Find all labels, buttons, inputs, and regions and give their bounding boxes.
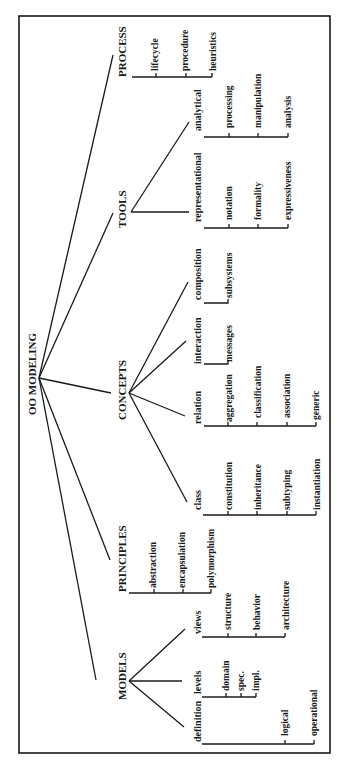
leaf-heuristics: heuristics [208, 32, 218, 71]
leaf-processing: processing [224, 85, 234, 128]
edge-concepts-class [129, 393, 187, 502]
edge-root-models [39, 378, 96, 680]
analytical-label: analytical [192, 89, 203, 131]
composition-bracket [204, 299, 228, 303]
root-label: OO MODELING [26, 332, 38, 415]
leaf-analysis: analysis [283, 95, 293, 128]
node-tools: TOOLS analytical processing manipulation… [116, 73, 293, 228]
leaf-domain: domain [221, 660, 231, 691]
leaf-instantiation: instantiation [312, 458, 322, 510]
leaf-formality: formality [253, 182, 263, 220]
leaf-subsystems: subsystems [224, 252, 234, 298]
leaf-association: association [282, 373, 292, 418]
leaf-messages: messages [224, 325, 234, 362]
views-label: views [192, 611, 203, 634]
leaf-manipulation: manipulation [253, 73, 263, 128]
edge-tools-analytical [131, 122, 189, 212]
leaf-abstraction: abstraction [148, 541, 158, 588]
leaf-architecture: architecture [281, 581, 291, 630]
leaf-impl: impl. [251, 670, 261, 691]
leaf-notation: notation [224, 186, 234, 221]
principles-label: PRINCIPLES [116, 525, 128, 592]
node-concepts: CONCEPTS composition subsystems interact… [116, 248, 322, 515]
leaf-subtyping: subtyping [282, 470, 292, 510]
leaf-constitution: constitution [224, 461, 234, 510]
leaf-structure: structure [223, 593, 233, 630]
edge-root-principles [39, 378, 110, 560]
leaf-expressiveness: expressiveness [283, 161, 293, 220]
edge-concepts-composition [129, 282, 188, 393]
root-edges [39, 55, 113, 680]
node-process: PROCESS lifecycle procedure heuristics [116, 26, 218, 77]
composition-label: composition [192, 248, 203, 300]
levels-label: levels [192, 671, 203, 694]
leaf-operational: operational [309, 689, 319, 736]
definition-label: definition [192, 700, 203, 742]
leaf-lifecycle: lifecycle [150, 38, 160, 71]
edge-concepts-relation [129, 393, 185, 416]
node-principles: PRINCIPLES abstraction encapsulation pol… [116, 525, 216, 593]
edge-models-views [129, 629, 185, 681]
representational-label: representational [192, 152, 203, 222]
leaf-polymorphism: polymorphism [206, 529, 216, 588]
process-label: PROCESS [116, 26, 128, 77]
class-label: class [192, 490, 203, 510]
edge-root-tools [39, 213, 113, 378]
tools-label: TOOLS [116, 190, 128, 228]
leaf-inheritance: inheritance [253, 464, 263, 510]
relation-label: relation [192, 390, 203, 424]
edge-root-concepts [39, 378, 111, 393]
concepts-label: CONCEPTS [116, 360, 128, 420]
edge-models-definition [129, 681, 184, 727]
leaf-procedure: procedure [180, 30, 190, 71]
leaf-encapsulation: encapsulation [177, 531, 187, 588]
models-label: MODELS [116, 652, 128, 700]
leaf-spec: spec. [236, 671, 246, 691]
edge-concepts-interaction [129, 341, 186, 393]
leaf-behavior: behavior [252, 593, 262, 630]
oo-modeling-tree-diagram: OO MODELING PROCESS lifecycle procedure … [0, 0, 343, 779]
edge-root-process [39, 55, 113, 378]
leaf-logical: logical [280, 709, 290, 736]
leaf-aggregation: aggregation [224, 373, 234, 422]
node-models: MODELS views structure behavior architec… [116, 581, 319, 744]
leaf-classification: classification [253, 365, 263, 418]
leaf-generic: generic [311, 390, 321, 420]
interaction-label: interaction [192, 317, 203, 364]
